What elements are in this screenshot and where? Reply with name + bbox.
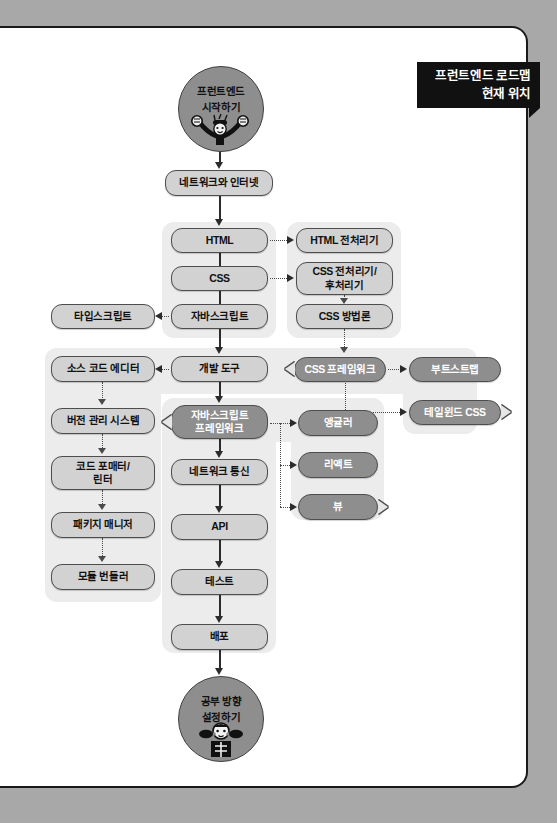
- vue-pointer-icon: [378, 500, 388, 514]
- node-code-formatter-linter[interactable]: 코드 포매터/ 린터: [51, 456, 155, 490]
- node-source-code-editor[interactable]: 소스 코드 에디터: [51, 356, 155, 382]
- arrowhead: [215, 219, 223, 226]
- tailwind-pointer-icon: [501, 405, 511, 419]
- arrowhead: [340, 347, 348, 353]
- node-network-communication[interactable]: 네트워크 통신: [171, 459, 268, 485]
- node-angular[interactable]: 앵귤러: [298, 410, 378, 436]
- banner-line-1: 프런트엔드 로드맵: [435, 67, 531, 85]
- end-node-line-1: 공부 방향: [201, 694, 242, 710]
- node-bootstrap[interactable]: 부트스트랩: [409, 357, 501, 382]
- cheering-person-icon: [186, 113, 256, 147]
- node-css-pre-post-line-1: CSS 전처리기/: [313, 265, 377, 278]
- node-test[interactable]: 테스트: [171, 569, 268, 595]
- node-react[interactable]: 리액트: [298, 452, 378, 478]
- arrowhead: [98, 556, 106, 562]
- connector-api-to-test: [219, 540, 221, 562]
- dotted-css-to-preprocessor: [270, 278, 287, 279]
- arrowhead: [290, 419, 297, 427]
- node-version-control-system[interactable]: 버전 관리 시스템: [51, 408, 155, 434]
- dotted-package-to-bundler: [102, 538, 103, 558]
- connector-css-to-js: [219, 291, 221, 304]
- node-deploy[interactable]: 배포: [171, 624, 268, 650]
- banner-line-2: 현재 위치: [482, 85, 531, 103]
- node-css-methodology[interactable]: CSS 방법론: [296, 304, 393, 329]
- dotted-jsfw-to-vue: [280, 507, 290, 508]
- arrowhead: [340, 298, 348, 304]
- css-framework-pointer-icon: [285, 362, 295, 376]
- end-node: 공부 방향 설정하기: [178, 676, 264, 762]
- connector-test-to-deploy: [219, 595, 221, 617]
- arrowhead: [215, 668, 223, 675]
- connector-html-to-css: [219, 253, 221, 266]
- banner-notch: [529, 108, 540, 118]
- start-node-line-1: 프런트엔드: [197, 84, 245, 100]
- node-package-manager[interactable]: 패키지 매니저: [51, 512, 155, 538]
- arrowhead: [155, 365, 162, 373]
- standing-person-icon: [189, 721, 253, 757]
- node-js-framework-line-1: 자바스크립트: [191, 409, 249, 422]
- node-code-formatter-line-2: 린터: [93, 473, 112, 486]
- arrowhead: [215, 561, 223, 568]
- arrowhead: [155, 312, 162, 320]
- top-margin-band: [0, 0, 557, 26]
- node-tailwind-css[interactable]: 테일윈드 CSS: [409, 400, 501, 425]
- node-api[interactable]: API: [171, 514, 268, 540]
- arrowhead: [215, 162, 223, 169]
- arrowhead: [215, 616, 223, 623]
- right-margin-band: [528, 0, 557, 823]
- arrowhead: [98, 399, 106, 405]
- arrowhead: [287, 274, 294, 282]
- node-css-framework[interactable]: CSS 프레임워크: [294, 357, 386, 382]
- node-vue[interactable]: 뷰: [298, 494, 378, 520]
- bottom-margin-band: [0, 788, 557, 823]
- arrowhead: [215, 396, 223, 403]
- dotted-methodology-to-cssfw: [344, 329, 345, 349]
- arrowhead: [215, 506, 223, 513]
- node-network-internet[interactable]: 네트워크와 인터넷: [165, 170, 273, 196]
- node-typescript[interactable]: 타입스크립트: [51, 304, 155, 329]
- arrowhead: [98, 504, 106, 510]
- node-html[interactable]: HTML: [171, 228, 268, 253]
- start-node: 프런트엔드 시작하기: [178, 66, 264, 152]
- arrowhead: [215, 451, 223, 458]
- arrowhead: [290, 461, 297, 469]
- node-html-preprocessor[interactable]: HTML 전처리기: [296, 228, 393, 253]
- connector-js-to-devtools: [219, 329, 221, 349]
- arrowhead: [290, 503, 297, 511]
- arrowhead: [215, 347, 223, 354]
- node-module-bundler[interactable]: 모듈 번들러: [51, 564, 155, 590]
- node-css[interactable]: CSS: [171, 266, 268, 291]
- node-css-preprocessor-postprocessor[interactable]: CSS 전처리기/ 후처리기: [296, 262, 393, 295]
- node-js-framework-line-2: 프레임워크: [195, 422, 243, 435]
- js-framework-pointer-icon: [162, 415, 172, 429]
- connector-network-to-html: [219, 196, 221, 220]
- arrowhead: [400, 365, 407, 373]
- connector-deploy-to-end: [219, 650, 221, 670]
- dotted-html-to-preprocessor: [270, 240, 287, 241]
- arrowhead: [98, 448, 106, 454]
- node-dev-tools[interactable]: 개발 도구: [171, 356, 268, 382]
- arrowhead: [400, 408, 407, 416]
- arrowhead: [287, 236, 294, 244]
- dotted-jsfw-to-react: [280, 465, 290, 466]
- node-javascript[interactable]: 자바스크립트: [171, 304, 268, 329]
- frontend-roadmap-banner: 프런트엔드 로드맵 현재 위치: [417, 62, 540, 108]
- node-css-pre-post-line-2: 후처리기: [325, 279, 363, 292]
- node-javascript-framework[interactable]: 자바스크립트 프레임워크: [171, 405, 268, 439]
- connector-networkcomm-to-api: [219, 485, 221, 507]
- node-code-formatter-line-1: 코드 포매터/: [76, 460, 129, 473]
